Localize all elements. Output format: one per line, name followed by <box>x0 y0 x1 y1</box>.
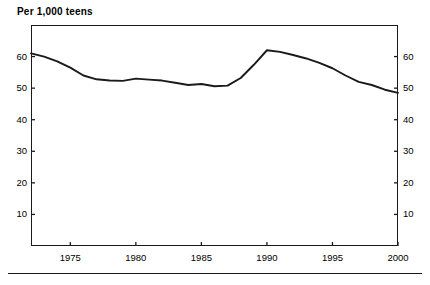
x-axis-tick-label: 1985 <box>181 253 221 263</box>
y-axis-tick-label: 30 <box>8 146 27 156</box>
y-axis-tick-label: 40 <box>8 115 27 125</box>
y-axis-tick-label-right: 50 <box>403 83 414 93</box>
x-axis-tick-label: 1980 <box>116 253 156 263</box>
chart-figure: Per 1,000 teens 102030405060 10203040506… <box>0 0 430 285</box>
bottom-rule <box>8 273 422 274</box>
axis-tick-marks <box>31 57 398 246</box>
x-axis-tick-label: 1995 <box>312 253 352 263</box>
y-axis-tick-label-right: 20 <box>403 178 414 188</box>
x-axis-tick-label: 2000 <box>378 253 418 263</box>
y-axis-tick-label-right: 10 <box>403 209 414 219</box>
data-series-line <box>31 50 398 93</box>
chart-svg <box>0 0 430 285</box>
x-axis-tick-label: 1990 <box>247 253 287 263</box>
y-axis-tick-label-right: 30 <box>403 146 414 156</box>
y-axis-tick-label-right: 60 <box>403 52 414 62</box>
y-axis-tick-label: 20 <box>8 178 27 188</box>
y-axis-tick-label: 50 <box>8 83 27 93</box>
y-axis-tick-label-right: 40 <box>403 115 414 125</box>
x-axis-tick-label: 1975 <box>50 253 90 263</box>
y-axis-tick-label: 60 <box>8 52 27 62</box>
y-axis-tick-label: 10 <box>8 209 27 219</box>
